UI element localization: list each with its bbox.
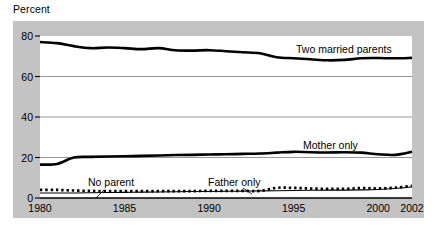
y-tick-label-60: 60 — [7, 71, 33, 83]
series-label-father-only: Father only — [208, 176, 261, 188]
x-tick-label-1980: 1980 — [17, 202, 63, 214]
data-series-layer — [40, 42, 412, 193]
x-tick-label-1990: 1990 — [186, 202, 232, 214]
y-tick-label-40: 40 — [7, 111, 33, 123]
x-tick-label-1995: 1995 — [271, 202, 317, 214]
chart-canvas — [0, 0, 435, 234]
annotation-leader-lines — [96, 188, 252, 198]
y-tick-label-20: 20 — [7, 152, 33, 164]
chart-figure: Percent 020406080 1980198519901995200020… — [0, 0, 435, 234]
y-tick-label-80: 80 — [7, 30, 33, 42]
series-line-mother-only — [40, 152, 412, 165]
series-label-no-parent: No parent — [88, 176, 134, 188]
x-tick-label-2002: 2002 — [389, 202, 435, 214]
series-label-two-married-parents: Two married parents — [296, 43, 392, 55]
series-label-mother-only: Mother only — [303, 139, 358, 151]
x-tick-label-1985: 1985 — [102, 202, 148, 214]
